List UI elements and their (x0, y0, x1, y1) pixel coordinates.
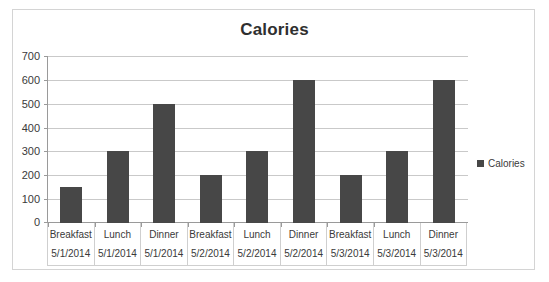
x-axis-meal-label: Lunch (383, 229, 410, 241)
bar-slot (281, 56, 328, 223)
y-tick-label-200: 200 (22, 169, 40, 181)
x-axis-meal-label: Lunch (104, 229, 131, 241)
x-axis-date-label: 5/2/2014 (284, 248, 323, 260)
bar-slot (95, 56, 142, 223)
x-axis-meal-label: Breakfast (329, 229, 371, 241)
x-axis-date-label: 5/1/2014 (98, 248, 137, 260)
y-tick-label-700: 700 (22, 50, 40, 62)
x-axis-label-table: Breakfast5/1/2014Lunch5/1/2014Dinner5/1/… (47, 223, 467, 266)
y-tick-label-400: 400 (22, 122, 40, 134)
y-tick-label-600: 600 (22, 74, 40, 86)
y-tick-label-500: 500 (22, 98, 40, 110)
x-axis-label-cell: Breakfast5/1/2014 (47, 223, 95, 266)
bar[interactable] (200, 175, 222, 223)
y-tick-label-0: 0 (34, 216, 40, 228)
x-axis-label-cell: Lunch5/2/2014 (234, 223, 281, 266)
bar[interactable] (433, 80, 455, 223)
x-axis-date-label: 5/1/2014 (144, 248, 183, 260)
bar[interactable] (293, 80, 315, 223)
bar-slot (141, 56, 188, 223)
bar-slot (234, 56, 281, 223)
x-axis-label-cell: Lunch5/3/2014 (374, 223, 421, 266)
x-axis-meal-label: Breakfast (189, 229, 231, 241)
bar-slot (48, 56, 95, 223)
bar[interactable] (340, 175, 362, 223)
y-tick-label-300: 300 (22, 145, 40, 157)
x-axis-date-label: 5/2/2014 (238, 248, 277, 260)
chart-title: Calories (13, 20, 536, 40)
x-axis-meal-label: Breakfast (50, 229, 92, 241)
x-axis-meal-label: Dinner (289, 229, 318, 241)
x-axis-label-cell: Dinner5/2/2014 (281, 223, 328, 266)
legend-swatch-calories (477, 160, 484, 167)
bar[interactable] (153, 104, 175, 223)
bar-slot (420, 56, 467, 223)
x-axis-label-cell: Dinner5/1/2014 (141, 223, 188, 266)
legend: Calories (477, 158, 525, 169)
x-axis-date-label: 5/1/2014 (51, 248, 90, 260)
plot-area: 0100200300400500600700 (47, 56, 467, 223)
bar[interactable] (107, 151, 129, 223)
x-axis-label-cell: Lunch5/1/2014 (95, 223, 142, 266)
legend-label-calories: Calories (488, 158, 525, 169)
x-axis-meal-label: Lunch (243, 229, 270, 241)
x-axis-date-label: 5/3/2014 (331, 248, 370, 260)
x-axis-label-cell: Dinner5/3/2014 (421, 223, 468, 266)
bar-slot (374, 56, 421, 223)
x-axis-date-label: 5/3/2014 (424, 248, 463, 260)
x-axis-meal-label: Dinner (149, 229, 178, 241)
bar-slot (327, 56, 374, 223)
bar[interactable] (386, 151, 408, 223)
x-axis-date-label: 5/2/2014 (191, 248, 230, 260)
bar[interactable] (60, 187, 82, 223)
bar-slot (188, 56, 235, 223)
bar[interactable] (246, 151, 268, 223)
chart-frame: Calories 0100200300400500600700 Breakfas… (12, 9, 535, 270)
x-axis-meal-label: Dinner (429, 229, 458, 241)
y-tick-label-100: 100 (22, 193, 40, 205)
x-axis-label-cell: Breakfast5/3/2014 (327, 223, 374, 266)
x-axis-label-cell: Breakfast5/2/2014 (188, 223, 235, 266)
x-axis-date-label: 5/3/2014 (377, 248, 416, 260)
